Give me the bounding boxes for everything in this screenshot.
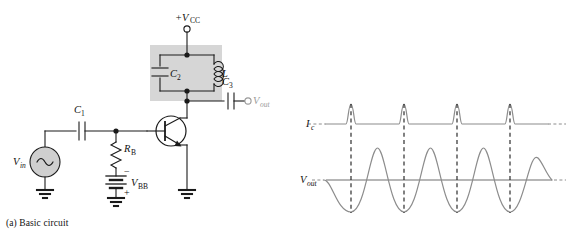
- vin-label-subscript: in: [20, 161, 26, 170]
- figure-class-c-amplifier: +V CC C 2 L: [0, 0, 581, 246]
- collector-current-waveform: [326, 104, 548, 124]
- capacitor-c1-label-subscript: 1: [81, 109, 85, 118]
- panel-basic-circuit: +V CC C 2 L: [0, 0, 290, 246]
- ground-emitter: [179, 190, 195, 198]
- battery-vbb: [106, 176, 126, 188]
- ground-bias: [108, 198, 124, 206]
- vout-waveform-label-subscript: out: [307, 179, 318, 188]
- vout-label-subscript: out: [260, 100, 271, 109]
- battery-minus-sign: −: [124, 166, 130, 177]
- vcc-terminal: [184, 26, 190, 32]
- battery-vbb-label-subscript: BB: [138, 182, 148, 191]
- ground-source: [37, 190, 53, 198]
- vout-terminal: [245, 98, 251, 104]
- ic-label: I: [305, 118, 310, 129]
- capacitor-c3-label-subscript: 3: [229, 81, 233, 90]
- waveform-plot: I c V out: [290, 0, 581, 215]
- vcc-label-subscript: CC: [190, 16, 200, 25]
- circuit-schematic: +V CC C 2 L: [0, 0, 290, 215]
- resistor-rb-zigzag: [111, 142, 121, 168]
- vcc-label: +V: [175, 12, 190, 23]
- capacitor-c2-label-subscript: 2: [177, 73, 181, 82]
- resistor-rb-label-subscript: B: [131, 148, 136, 157]
- caption-panel-a: (a) Basic circuit: [6, 218, 68, 228]
- panel-output-waveforms: I c V out (b) Output waveforms: [290, 0, 581, 246]
- resistor-rb-label: R: [123, 143, 131, 154]
- battery-plus-sign: +: [124, 187, 130, 198]
